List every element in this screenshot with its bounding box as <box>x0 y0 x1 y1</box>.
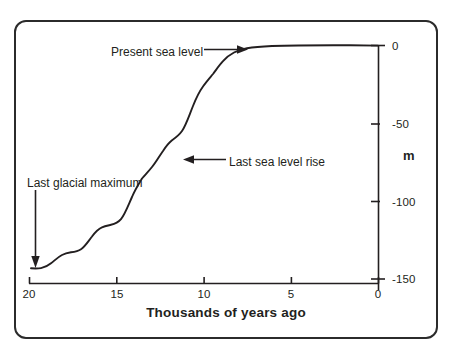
last-sea-level-rise-arrow <box>183 155 226 163</box>
x-tick-label-15: 15 <box>111 288 124 300</box>
sea-level-curve <box>31 45 378 268</box>
annotation-last-sea-level-rise: Last sea level rise <box>229 155 325 169</box>
y-tick-label-0: 0 <box>392 40 399 52</box>
x-tick-label-5: 5 <box>288 288 295 300</box>
last-glacial-maximum-arrow <box>31 190 39 268</box>
annotation-present-sea-level: Present sea level <box>111 45 203 59</box>
annotation-last-glacial-maximum: Last glacial maximum <box>27 176 142 190</box>
y-tick-label-50: -50 <box>392 118 409 130</box>
present-sea-level-arrow <box>204 45 248 53</box>
x-tick-label-10: 10 <box>198 288 211 300</box>
y-axis-unit-label: m <box>403 148 415 163</box>
x-axis-title: Thousands of years ago <box>0 305 452 320</box>
y-tick-label-150: -150 <box>392 273 415 285</box>
x-tick-label-20: 20 <box>23 288 36 300</box>
x-tick-label-0: 0 <box>375 288 382 300</box>
y-tick-label-100: -100 <box>392 196 415 208</box>
